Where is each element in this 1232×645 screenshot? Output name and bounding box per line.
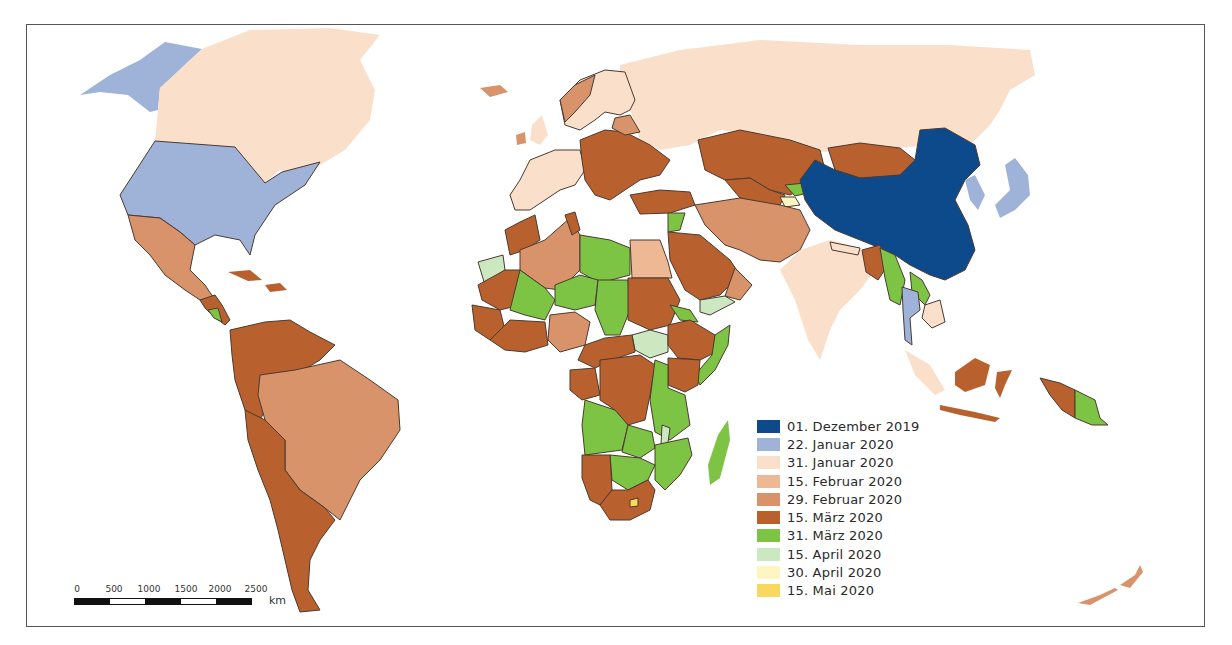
legend-label: 30. April 2020 [787, 565, 882, 580]
region-borneo [955, 358, 990, 392]
scale-segment [75, 599, 110, 604]
region-ireland [516, 132, 526, 145]
scale-tick: 2000 [209, 584, 232, 594]
legend-label: 01. Dezember 2019 [787, 419, 920, 434]
legend-label: 22. Januar 2020 [787, 437, 894, 452]
legend-item: 15. März 2020 [757, 508, 920, 526]
legend-swatch [757, 584, 780, 597]
region-congo-gabon [570, 368, 600, 400]
legend-label: 15. Mai 2020 [787, 583, 874, 598]
legend-label: 29. Februar 2020 [787, 492, 902, 507]
legend-swatch [757, 511, 780, 524]
region-sudan [628, 278, 680, 330]
legend: 01. Dezember 2019 22. Januar 2020 31. Ja… [757, 417, 920, 600]
region-cuba [228, 270, 262, 281]
region-russia [620, 40, 1035, 152]
region-new-guinea-west [1040, 378, 1075, 418]
legend-item: 15. Mai 2020 [757, 582, 920, 600]
scale-tick: 2500 [245, 584, 268, 594]
legend-item: 15. April 2020 [757, 545, 920, 563]
scale-tick: 1000 [138, 584, 161, 594]
scale-tick: 1500 [175, 584, 198, 594]
legend-label: 31. März 2020 [787, 528, 883, 543]
region-india [780, 240, 875, 360]
scale-segment [110, 599, 145, 604]
region-libya [580, 235, 630, 283]
scale-segment [216, 599, 251, 604]
region-japan [995, 158, 1030, 218]
region-iceland [480, 85, 508, 97]
region-yemen [700, 296, 735, 315]
legend-item: 29. Februar 2020 [757, 490, 920, 508]
legend-swatch [757, 438, 780, 451]
legend-swatch [757, 420, 780, 433]
region-malaysia-sumatra [905, 350, 945, 395]
region-thailand [902, 287, 920, 345]
region-chad [595, 280, 630, 335]
scale-unit: km [269, 594, 286, 607]
legend-swatch [757, 475, 780, 488]
region-zambia [622, 425, 655, 458]
region-syria [668, 213, 685, 232]
legend-label: 15. März 2020 [787, 510, 883, 525]
region-hispaniola [265, 283, 287, 292]
region-western-europe [510, 150, 585, 210]
legend-item: 31. März 2020 [757, 527, 920, 545]
world-map [0, 0, 1232, 645]
scale-segment [145, 599, 180, 604]
scale-ticks: 0 500 1000 1500 2000 2500 [74, 584, 274, 598]
region-madagascar [708, 420, 730, 485]
legend-swatch [757, 529, 780, 542]
legend-swatch [757, 493, 780, 506]
scale-tick: 0 [74, 584, 80, 594]
scale-bar-segments [74, 598, 252, 605]
legend-item: 22. Januar 2020 [757, 435, 920, 453]
legend-item: 15. Februar 2020 [757, 472, 920, 490]
region-south-sudan [632, 330, 668, 358]
region-kenya [668, 358, 700, 392]
scale-bar: 0 500 1000 1500 2000 2500 km [74, 584, 274, 605]
region-turkey [630, 190, 695, 214]
scale-segment [181, 599, 216, 604]
legend-label: 15. April 2020 [787, 547, 882, 562]
legend-item: 01. Dezember 2019 [757, 417, 920, 435]
legend-label: 15. Februar 2020 [787, 474, 902, 489]
legend-item: 30. April 2020 [757, 563, 920, 581]
legend-label: 31. Januar 2020 [787, 455, 894, 470]
region-new-zealand [1078, 565, 1143, 605]
legend-item: 31. Januar 2020 [757, 454, 920, 472]
region-korea [965, 175, 985, 210]
region-mozambique [655, 438, 692, 490]
region-egypt [630, 240, 672, 278]
scale-tick: 500 [105, 584, 122, 594]
region-uk [530, 115, 548, 145]
region-nigeria [548, 312, 590, 352]
legend-swatch [757, 548, 780, 561]
region-java [940, 405, 1000, 422]
region-papua-new-guinea [1075, 390, 1108, 425]
region-sulawesi [995, 370, 1012, 398]
legend-swatch [757, 566, 780, 579]
legend-swatch [757, 456, 780, 469]
region-lesotho [630, 498, 638, 507]
